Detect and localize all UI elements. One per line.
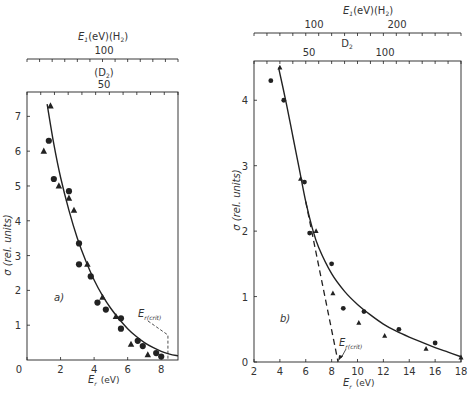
panel-a-data-series — [41, 102, 178, 360]
data-point-circle — [433, 341, 438, 346]
y-tick-label: 3 — [15, 251, 21, 262]
y-tick-label: 3 — [242, 161, 248, 172]
y-tick-label: 0 — [242, 357, 248, 368]
crit-arrowhead — [338, 355, 343, 361]
panel-b-label: b) — [280, 313, 290, 324]
y-tick-label: 5 — [15, 181, 21, 192]
y-tick-label: 1 — [15, 320, 21, 331]
panel-b-crit-annotation: Er(crit) — [339, 337, 362, 350]
panel-b-top-axis-1-tick-100: 100 — [304, 19, 323, 30]
panel-b-axis-ticks: 2468101214161801234 — [242, 95, 468, 377]
y-tick-label: 4 — [242, 95, 248, 106]
data-point-triangle — [41, 148, 47, 154]
panel-a-label: a) — [54, 292, 64, 303]
panel-a-top-axis-1 — [27, 59, 178, 62]
x-tick-label: 12 — [377, 366, 390, 377]
x-tick-label: 0 — [16, 364, 22, 375]
extrapolation-dashed-line — [306, 202, 338, 362]
data-point-triangle — [458, 355, 463, 360]
y-tick-label: 6 — [15, 146, 21, 157]
data-point-triangle — [277, 65, 282, 70]
x-tick-label: 4 — [277, 366, 283, 377]
data-point-circle — [51, 176, 57, 182]
x-tick-label: 18 — [455, 366, 468, 377]
y-tick-label: 4 — [15, 216, 21, 227]
x-tick-label: 14 — [403, 366, 416, 377]
panel-b-top-axis-2-tick-50: 50 — [303, 47, 316, 58]
panel-a-top-axis-1-tick: 100 — [94, 45, 113, 56]
x-tick-label: 8 — [328, 366, 334, 377]
data-point-triangle — [71, 207, 77, 213]
data-point-triangle — [56, 182, 62, 188]
panel-b-top-axis-1-tick-200: 200 — [387, 19, 406, 30]
data-point-circle — [46, 138, 52, 144]
panel-b: E1(eV)(H2) 100 200 D2 50 100 24681012141… — [231, 5, 467, 390]
data-point-triangle — [330, 290, 335, 295]
panel-a-top-axis-2-title: (D2) — [94, 67, 113, 79]
x-tick-label: 10 — [351, 366, 364, 377]
panel-b-top-axis-1 — [254, 33, 461, 36]
data-point-triangle — [382, 333, 387, 338]
y-tick-label: 2 — [15, 285, 21, 296]
data-point-triangle — [128, 341, 134, 347]
data-point-triangle — [145, 351, 151, 357]
data-point-circle — [341, 306, 346, 311]
y-tick-label: 7 — [15, 111, 21, 122]
panel-b-top-axis-1-title: E1(eV)(H2) — [343, 5, 393, 17]
x-tick-label: 16 — [429, 366, 442, 377]
data-point-circle — [66, 188, 72, 194]
panel-a-x-axis-label: Er(eV) — [88, 374, 120, 387]
x-tick-label: 8 — [158, 364, 164, 375]
data-point-circle — [158, 353, 164, 359]
panel-a-y-axis-label: σ (rel. units) — [2, 214, 13, 275]
data-point-triangle — [356, 320, 361, 325]
x-tick-label: 6 — [303, 366, 309, 377]
data-point-circle — [329, 261, 334, 266]
y-tick-label: 1 — [242, 292, 248, 303]
figure-canvas: E1(eV)(H2) 100 (D2) 50 246801234567 a) σ… — [0, 0, 473, 394]
panel-a: E1(eV)(H2) 100 (D2) 50 246801234567 a) σ… — [2, 31, 178, 387]
panel-b-top-axis-2-title: D2 — [341, 38, 353, 50]
data-point-circle — [103, 306, 109, 312]
panel-a-crit-annotation: Er(crit) — [138, 308, 161, 321]
panel-b-x-axis-label: Er(eV) — [343, 377, 375, 390]
y-tick-label: 2 — [242, 226, 248, 237]
data-point-circle — [140, 343, 146, 349]
x-tick-label: 6 — [124, 364, 130, 375]
x-tick-label: 2 — [57, 364, 63, 375]
panel-b-top-axis-2-tick-100: 100 — [375, 47, 394, 58]
data-point-triangle — [314, 228, 319, 233]
panel-a-top-axis-2-tick: 50 — [98, 79, 111, 90]
fit-curve — [279, 68, 461, 357]
panel-a-top-axis-1-title: E1(eV)(H2) — [78, 31, 128, 43]
panel-b-y-axis-label: σ (rel. units) — [231, 169, 242, 230]
x-tick-label: 2 — [251, 366, 257, 377]
data-point-triangle — [424, 346, 429, 351]
data-point-circle — [76, 261, 82, 267]
data-point-circle — [268, 78, 273, 83]
data-point-circle — [118, 326, 124, 332]
panel-b-data-series — [268, 65, 463, 362]
panel-a-axis-ticks: 246801234567 — [15, 111, 165, 375]
data-point-circle — [94, 299, 100, 305]
